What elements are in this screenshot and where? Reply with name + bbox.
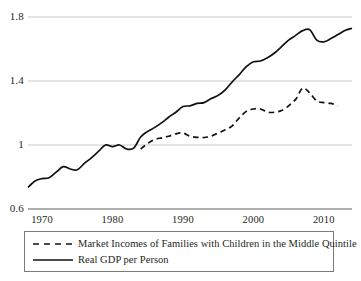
chart-legend: Market Incomes of Families with Children… bbox=[24, 231, 334, 272]
legend-label: Real GDP per Person bbox=[75, 254, 169, 266]
chart-figure: 1.8 1.4 1 0.6 1970 1980 1990 2000 2010 M… bbox=[0, 0, 361, 281]
solid-line-swatch bbox=[31, 254, 75, 266]
y-axis-tick-label: 1 bbox=[2, 139, 24, 150]
x-axis-tick-label: 1980 bbox=[93, 214, 133, 225]
legend-entry-real-gdp: Real GDP per Person bbox=[31, 253, 169, 267]
dashed-line-swatch bbox=[31, 238, 75, 250]
legend-label: Market Incomes of Families with Children… bbox=[75, 238, 357, 250]
x-axis-tick-label: 2000 bbox=[233, 214, 273, 225]
series-line bbox=[28, 28, 352, 187]
series-group bbox=[28, 28, 352, 187]
y-axis-tick-label: 0.6 bbox=[2, 203, 24, 214]
x-axis-tick-label: 2010 bbox=[304, 214, 344, 225]
legend-entry-market-incomes: Market Incomes of Families with Children… bbox=[31, 237, 357, 251]
y-axis-tick-label: 1.4 bbox=[2, 75, 24, 86]
series-line bbox=[141, 88, 338, 149]
gridlines-group bbox=[28, 17, 352, 209]
x-axis-tick-label: 1990 bbox=[163, 214, 203, 225]
y-axis-tick-label: 1.8 bbox=[2, 11, 24, 22]
x-axis-tick-label: 1970 bbox=[22, 214, 62, 225]
